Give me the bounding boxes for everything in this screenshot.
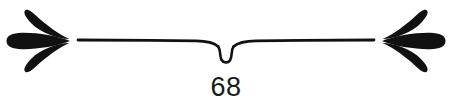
page-footer-region: 68 [0, 0, 452, 106]
page-number: 68 [0, 72, 452, 102]
teardrop-loop-knot [218, 47, 233, 63]
right-petal-fan-icon [382, 10, 446, 72]
rule-right-segment [234, 40, 374, 47]
left-petal-fan-icon [7, 10, 71, 72]
rule-left-segment [78, 40, 218, 47]
